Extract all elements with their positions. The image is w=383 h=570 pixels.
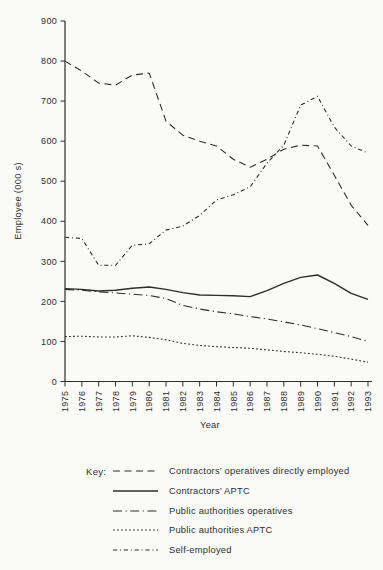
x-tick-label: 1990: [313, 391, 323, 412]
x-tick-label: 1980: [144, 391, 154, 412]
y-tick-label: 900: [41, 16, 57, 26]
y-axis-title: Employee (000 s): [13, 162, 23, 240]
x-tick-label: 1977: [94, 391, 104, 412]
x-tick-label: 1993: [363, 391, 373, 412]
x-tick-label: 1976: [77, 391, 87, 412]
key-item-contractors-operatives: Contractors’ operatives directly employe…: [113, 465, 349, 477]
y-tick-label: 200: [41, 297, 57, 307]
y-tick-label: 400: [41, 216, 57, 226]
x-tick-label: 1979: [128, 391, 138, 412]
legend-line-solid-icon: [113, 485, 158, 497]
x-tick-label: 1978: [111, 391, 121, 412]
x-tick-label: 1987: [262, 391, 272, 412]
x-tick-label: 1982: [178, 391, 188, 412]
legend-line-dotted-icon: [113, 524, 158, 536]
x-tick-label: 1988: [279, 391, 289, 412]
y-tick-label: 0: [52, 377, 57, 387]
key-item-label: Public authorities APTC: [169, 525, 272, 535]
x-tick-label: 1986: [245, 391, 255, 412]
axes: [65, 21, 372, 382]
x-tick-label: 1975: [60, 391, 70, 412]
key-item-public-authorities-aptc: Public authorities APTC: [113, 524, 272, 536]
y-tick-label: 500: [41, 176, 57, 186]
y-tick-label: 100: [41, 337, 57, 347]
x-tick-label: 1984: [212, 391, 222, 412]
legend-line-dash-dot-icon: [113, 544, 158, 556]
key-item-label: Public authorities operatives: [169, 506, 293, 516]
y-tick-label: 600: [41, 136, 57, 146]
key-item-label: Self-employed: [169, 545, 232, 555]
series-line-self-employed: [65, 96, 368, 265]
key-item-label: Contractors’ operatives directly employe…: [169, 466, 349, 476]
series-line-contractors-operatives-directly-employed: [65, 61, 368, 225]
key-item-public-authorities-operatives: Public authorities operatives: [113, 505, 293, 517]
figure-page: 0100200300400500600700800900197519761977…: [0, 0, 383, 570]
y-tick-label: 800: [41, 56, 57, 66]
x-axis-title: Year: [200, 420, 220, 430]
x-tick-label: 1985: [229, 391, 239, 412]
y-tick-label: 700: [41, 96, 57, 106]
x-tick-label: 1983: [195, 391, 205, 412]
x-tick-label: 1992: [346, 391, 356, 412]
series-line-contractors-aptc: [65, 275, 368, 299]
legend-line-dashed-icon: [113, 465, 158, 477]
x-tick-label: 1991: [330, 391, 340, 412]
x-tick-label: 1981: [161, 391, 171, 412]
series-line-public-authorities-operatives: [65, 289, 368, 341]
key-title: Key:: [86, 466, 106, 477]
key-item-contractors-aptc: Contractors’ APTC: [113, 485, 250, 497]
key-item-self-employed: Self-employed: [113, 544, 232, 556]
key-item-label: Contractors’ APTC: [169, 486, 250, 496]
series-line-public-authorities-aptc: [65, 336, 368, 363]
x-tick-label: 1989: [296, 391, 306, 412]
employment-line-chart: 0100200300400500600700800900197519761977…: [0, 0, 383, 445]
y-tick-label: 300: [41, 257, 57, 267]
legend-line-long-dash-dot-icon: [113, 505, 158, 517]
